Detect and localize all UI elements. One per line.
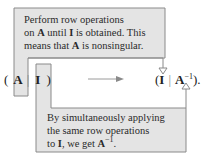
paren: )	[46, 72, 50, 87]
text: means that	[24, 40, 72, 51]
text: on	[24, 27, 37, 38]
inverse-exponent: −1	[184, 72, 193, 81]
text: is obtained. This	[73, 27, 145, 38]
matrix-A: A	[13, 72, 22, 87]
matrix-A: A	[175, 72, 184, 87]
text: Perform row operations	[24, 14, 124, 25]
matrix-I: I	[35, 72, 40, 87]
text: is nonsingular.	[79, 40, 143, 51]
top-note-line-1: Perform row operations	[24, 13, 124, 26]
paren: (	[4, 72, 8, 87]
top-note-line-2: on A until I is obtained. This	[24, 26, 145, 39]
separator-bar: |	[168, 72, 171, 87]
matrix-A: A	[37, 27, 45, 38]
text: By simultaneously applying	[47, 112, 165, 123]
paren: ).	[193, 72, 201, 87]
right-arrow-icon	[116, 76, 124, 82]
text: .	[114, 138, 117, 149]
top-note-line-3: means that A is nonsingular.	[24, 39, 143, 52]
text: the same row operations	[47, 125, 149, 136]
left-augmented-matrix: (A|I)	[4, 72, 51, 87]
right-augmented-matrix: (I|A−1).	[155, 72, 201, 87]
matrix-A: A	[97, 138, 105, 149]
bottom-note-line-2: the same row operations	[47, 124, 149, 137]
text: to	[47, 138, 58, 149]
text: until	[45, 27, 70, 38]
inverse-exponent: −1	[105, 135, 114, 144]
text: , we get	[62, 138, 98, 149]
bottom-note-line-1: By simultaneously applying	[47, 111, 165, 124]
matrix-I: I	[159, 72, 164, 87]
separator-bar: |	[27, 72, 30, 87]
bottom-note-line-3: to I, we get A−1.	[47, 137, 116, 150]
